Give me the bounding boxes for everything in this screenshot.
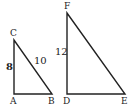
side-label-bc: 10 bbox=[34, 55, 47, 66]
vertex-label-c: C bbox=[10, 28, 17, 38]
triangle-def bbox=[67, 13, 125, 94]
vertex-label-e: E bbox=[121, 96, 128, 106]
triangle-abc bbox=[14, 40, 52, 94]
similar-triangles-diagram: C A B 8 10 F D E 12 bbox=[0, 0, 132, 107]
vertex-label-b: B bbox=[48, 96, 55, 106]
vertex-label-f: F bbox=[64, 1, 70, 11]
side-label-ac: 8 bbox=[6, 61, 13, 72]
side-label-df: 12 bbox=[55, 46, 68, 57]
vertex-label-a: A bbox=[9, 96, 17, 106]
vertex-label-d: D bbox=[63, 96, 70, 106]
